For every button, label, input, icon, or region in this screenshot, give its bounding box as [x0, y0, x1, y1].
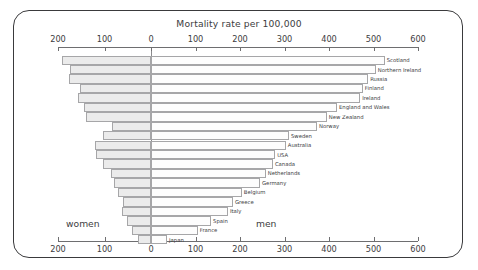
- bar-row: Italy: [0, 207, 478, 216]
- country-label: Norway: [319, 122, 339, 130]
- bar-women-canada: [103, 159, 151, 168]
- top-axis-tick-mark: [58, 47, 59, 51]
- bar-women-australia: [95, 141, 151, 150]
- country-label: Canada: [275, 160, 295, 168]
- bottom-axis-tick-label: 600: [398, 244, 438, 254]
- bar-women-finland: [80, 84, 151, 93]
- bar-men-australia: [151, 141, 286, 150]
- bar-men-usa: [151, 150, 275, 159]
- bar-women-germany: [114, 178, 151, 187]
- bar-women-new-zealand: [86, 112, 151, 121]
- country-label: Greece: [235, 198, 254, 206]
- bar-men-italy: [151, 207, 228, 216]
- figure: Mortality rate per 100,000 2001000100200…: [0, 0, 478, 270]
- country-label: Northern Ireland: [378, 66, 422, 74]
- country-label: Belgium: [244, 188, 266, 196]
- country-label: Netherlands: [268, 169, 300, 177]
- bar-men-norway: [151, 122, 317, 131]
- bottom-axis-tick-label: 100: [85, 244, 125, 254]
- bar-men-england-and-wales: [151, 103, 337, 112]
- country-label: Finland: [365, 84, 384, 92]
- top-axis-tick-label: 100: [85, 34, 125, 44]
- bar-women-spain: [127, 216, 151, 225]
- top-axis-tick-mark: [105, 47, 106, 51]
- group-label-men: men: [256, 218, 276, 229]
- top-axis-tick-label: 500: [354, 34, 394, 44]
- top-axis-tick-label: 200: [220, 34, 260, 44]
- bar-women-netherlands: [111, 169, 151, 178]
- country-label: England and Wales: [339, 103, 389, 111]
- bar-row: Netherlands: [0, 169, 478, 178]
- bar-row: Germany: [0, 178, 478, 187]
- top-axis-line: [58, 47, 418, 48]
- bar-women-france: [132, 226, 151, 235]
- bar-men-canada: [151, 159, 273, 168]
- top-axis-tick-label: 0: [131, 34, 171, 44]
- country-label: Russia: [370, 75, 387, 83]
- top-axis-tick-label: 600: [398, 34, 438, 44]
- bar-women-japan: [138, 235, 151, 244]
- country-label: Sweden: [291, 132, 312, 140]
- bar-men-netherlands: [151, 169, 266, 178]
- bar-women-russia: [69, 74, 151, 83]
- top-axis-tick-mark: [151, 47, 152, 51]
- bar-row: New Zealand: [0, 112, 478, 121]
- bar-men-russia: [151, 74, 368, 83]
- bar-row: Northern Ireland: [0, 65, 478, 74]
- top-axis-tick-mark: [418, 47, 419, 51]
- bar-men-sweden: [151, 131, 289, 140]
- bar-row: Belgium: [0, 188, 478, 197]
- bottom-axis-tick-label: 300: [265, 244, 305, 254]
- bar-row: Scotland: [0, 56, 478, 65]
- bar-row: Russia: [0, 74, 478, 83]
- bar-men-germany: [151, 178, 260, 187]
- top-axis-tick-mark: [374, 47, 375, 51]
- bar-men-france: [151, 226, 198, 235]
- bottom-axis-tick-label: 500: [354, 244, 394, 254]
- bar-women-norway: [112, 122, 151, 131]
- bar-men-spain: [151, 216, 211, 225]
- top-axis-tick-mark: [285, 47, 286, 51]
- top-axis-tick-mark: [329, 47, 330, 51]
- bar-men-ireland: [151, 93, 360, 102]
- country-label: France: [200, 226, 218, 234]
- country-label: Ireland: [362, 94, 380, 102]
- bottom-axis-tick-label: 400: [309, 244, 349, 254]
- bar-women-scotland: [62, 56, 151, 65]
- bottom-axis-tick-label: 100: [176, 244, 216, 254]
- bar-men-japan: [151, 235, 167, 244]
- top-axis-tick-label: 200: [38, 34, 78, 44]
- bar-row: Finland: [0, 84, 478, 93]
- bottom-axis-tick-label: 0: [131, 244, 171, 254]
- bottom-axis-tick-label: 200: [38, 244, 78, 254]
- bar-women-greece: [123, 197, 151, 206]
- bar-row: Sweden: [0, 131, 478, 140]
- bar-women-italy: [122, 207, 151, 216]
- bar-women-belgium: [118, 188, 151, 197]
- bar-women-england-and-wales: [84, 103, 151, 112]
- top-axis-tick-label: 100: [176, 34, 216, 44]
- group-label-women: women: [66, 218, 100, 229]
- chart-title: Mortality rate per 100,000: [0, 18, 478, 29]
- top-axis-tick-label: 400: [309, 34, 349, 44]
- bar-row: Australia: [0, 141, 478, 150]
- country-label: New Zealand: [329, 113, 364, 121]
- bar-men-greece: [151, 197, 233, 206]
- bar-row: Japan: [0, 235, 478, 244]
- country-label: Scotland: [387, 56, 410, 64]
- top-axis-tick-mark: [196, 47, 197, 51]
- bar-row: Greece: [0, 197, 478, 206]
- bar-women-usa: [96, 150, 151, 159]
- bar-men-finland: [151, 84, 363, 93]
- bar-row: England and Wales: [0, 103, 478, 112]
- country-label: Spain: [213, 217, 228, 225]
- country-label: Australia: [288, 141, 311, 149]
- bar-men-scotland: [151, 56, 385, 65]
- country-label: Germany: [262, 179, 286, 187]
- top-axis-tick-mark: [240, 47, 241, 51]
- country-label: Japan: [169, 236, 184, 244]
- bar-men-northern-ireland: [151, 65, 376, 74]
- bar-men-belgium: [151, 188, 242, 197]
- bar-row: Norway: [0, 122, 478, 131]
- bar-row: Canada: [0, 159, 478, 168]
